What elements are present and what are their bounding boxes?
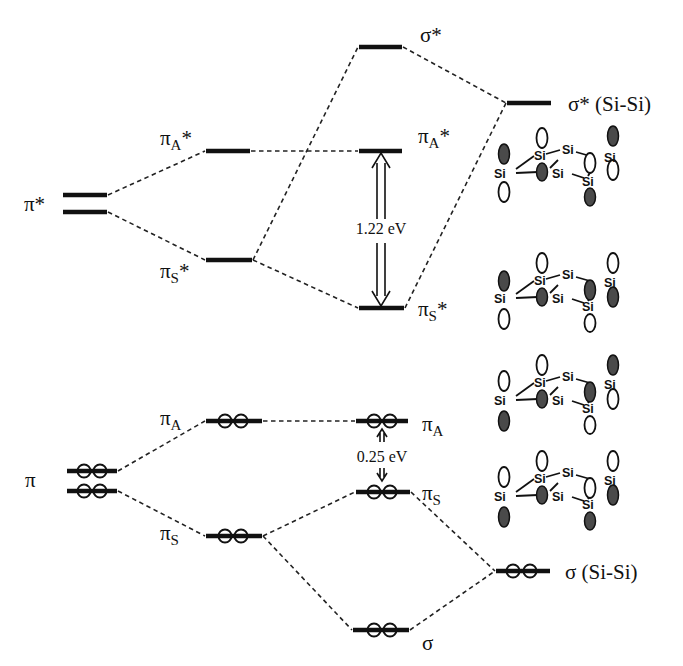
lobe-icon [499,507,510,527]
connector-sigma-to-sisi [410,571,495,630]
lobe-icon [585,512,596,530]
si-atom-label: Si [494,167,506,181]
si-atom-label: Si [562,268,574,282]
connector-pistar-to-piSstar [108,212,205,260]
gap-arrow-unoccupied: 1.22 eV [356,153,407,306]
lobe-icon [499,271,510,291]
connector-piSstar-mid-to-sigmastar [253,47,358,260]
lobe-icon [608,451,619,471]
si-atom-label: Si [604,474,616,488]
lobe-icon [608,485,619,505]
lobe-icon [608,389,619,409]
lobe-icon [537,355,548,375]
connector-piSstar-mid-to-center [253,260,358,308]
lobe-icon [537,163,548,181]
level-pi-left-lower [67,485,117,498]
lobe-icon [537,128,548,148]
lobe-icon [499,467,510,487]
connector-piS-mid-to-center [263,492,355,536]
si-atom-label: Si [604,378,616,392]
si-atom-label: Si [582,300,594,314]
double-arrow-up-icon [377,429,387,442]
connector-pistar-to-piAstar [108,151,205,195]
lobe-icon [585,188,596,206]
lobe-icon [608,287,619,307]
connector-piS-mid-to-sigma [263,536,352,630]
lobe-icon [585,478,596,498]
si-atom-label: Si [582,498,594,512]
lobe-icon [537,390,548,408]
double-arrow-down-icon [377,468,387,481]
lobe-icon [585,153,596,173]
lobe-icon [499,144,510,164]
orbital-picture-piS: Si Si Si Si Si Si [494,451,619,530]
lobe-icon [585,382,596,402]
label-piS-star-mid: πS* [160,259,189,286]
label-pi-star-left: π* [24,192,45,216]
si-atom-label: Si [552,167,564,181]
label-sigma-star-center: σ* [420,23,442,47]
si-atom-label: Si [562,143,574,157]
si-atom-label: Si [582,402,594,416]
label-sigma-star-sisi: σ* (Si-Si) [568,92,651,116]
si-atom-label: Si [494,292,506,306]
si-atom-label: Si [604,276,616,290]
lobe-icon [537,486,548,504]
label-piA-star-center: πA* [418,124,450,151]
level-pi-left-upper [67,465,117,478]
orbital-picture-piS-star: Si Si Si Si Si Si [494,253,619,332]
double-arrow-up-icon [372,153,390,219]
si-atom-label: Si [534,274,546,288]
lobe-icon [585,416,596,434]
si-atom-label: Si [534,376,546,390]
si-atom-label: Si [552,490,564,504]
gap-label-1-22-ev: 1.22 eV [356,220,407,237]
gap-arrow-occupied: 0.25 eV [357,429,408,481]
occupied-levels [67,415,550,637]
level-piS-center [356,486,410,499]
gap-label-0-25-ev: 0.25 eV [357,448,408,465]
double-arrow-down-icon [372,243,390,306]
lobe-icon [608,355,619,375]
si-atom-label: Si [562,466,574,480]
label-piA-center: πA [422,412,444,439]
label-piA-star-mid: πA* [160,126,192,153]
si-atom-label: Si [604,151,616,165]
label-sigma-sisi: σ (Si-Si) [565,560,638,584]
level-piS-mid [206,530,262,543]
connector-sigmastar-to-sisi [403,47,506,103]
si-atom-label: Si [534,472,546,486]
lobe-icon [585,314,596,332]
si-atom-label: Si [494,490,506,504]
si-atom-label: Si [494,394,506,408]
lobe-icon [499,309,510,329]
lobe-icon [608,253,619,273]
level-sigma-bottom [353,624,409,637]
mo-diagram: 1.22 eV 0.25 eV π* πA* πS* σ* πA* πS* [0,0,683,666]
lobe-icon [499,371,510,391]
si-atom-label: Si [552,394,564,408]
lobe-icon [499,182,510,202]
si-atom-label: Si [562,370,574,384]
si-atom-label: Si [534,149,546,163]
lobe-icon [608,126,619,146]
level-labels: π* πA* πS* σ* πA* πS* σ* (Si-Si) π πA [24,23,651,655]
si-atom-label: Si [552,292,564,306]
lobe-icon [585,280,596,300]
level-piA-center [356,415,408,428]
label-piA-mid: πA [160,406,182,433]
label-sigma-bottom: σ [422,631,433,655]
lobe-icon [537,451,548,471]
lobe-icon [537,288,548,306]
unoccupied-levels [63,47,551,308]
level-sigma-sisi [496,565,550,578]
lobe-icon [499,411,510,431]
label-pi-left: π [25,468,36,492]
si-atom-label: Si [582,175,594,189]
orbital-picture-piA-star: Si Si Si Si Si Si [494,126,619,206]
label-piS-star-center: πS* [418,297,447,324]
label-piS-center: πS [422,481,441,508]
orbital-picture-piA: Si Si Si Si Si Si [494,355,619,434]
level-piA-mid [206,415,262,428]
label-piS-mid: πS [160,521,179,548]
